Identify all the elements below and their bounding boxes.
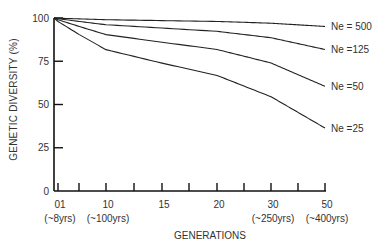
y-tick-label: 100 xyxy=(32,13,49,24)
series-label: Ne =50 xyxy=(331,81,364,92)
x-tick-label: 01 xyxy=(54,199,66,210)
series-line xyxy=(54,18,325,49)
y-tick-label: 75 xyxy=(38,56,50,67)
series-label: Ne = 500 xyxy=(331,21,372,32)
chart-canvas: 025507510001(~8yrs)10(~100yrs)152030(~25… xyxy=(0,0,389,248)
x-tick-label: 10 xyxy=(102,199,114,210)
series-line xyxy=(54,18,325,128)
x-tick-label: 30 xyxy=(267,199,279,210)
x-axis-label: GENERATIONS xyxy=(150,230,270,241)
y-tick-label: 25 xyxy=(38,142,50,153)
x-tick-sublabel: (~250yrs) xyxy=(252,213,295,224)
series-label: Ne =25 xyxy=(331,123,364,134)
x-tick-label: 20 xyxy=(213,199,225,210)
x-tick-label: 15 xyxy=(158,199,170,210)
y-tick-label: 50 xyxy=(38,99,50,110)
x-tick-sublabel: (~100yrs) xyxy=(87,213,130,224)
x-tick-sublabel: (~400yrs) xyxy=(306,213,349,224)
x-tick-sublabel: (~8yrs) xyxy=(44,213,75,224)
y-tick-label: 0 xyxy=(43,186,49,197)
x-tick-label: 50 xyxy=(321,199,333,210)
series-line xyxy=(54,18,325,86)
y-axis-label: GENETIC DIVERSITY (%) xyxy=(8,35,19,165)
series-line xyxy=(54,18,325,26)
series-label: Ne =125 xyxy=(331,44,370,55)
